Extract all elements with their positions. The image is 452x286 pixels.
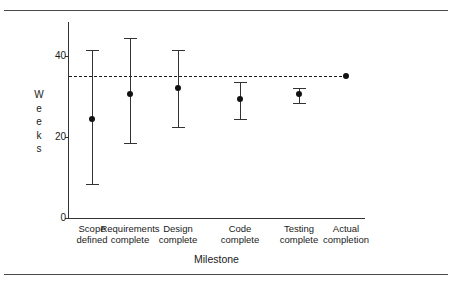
y-axis-title-letter: k [30, 129, 48, 143]
error-bar-cap-upper [124, 38, 137, 39]
figure: 02040 Weeks ScopedefinedRequirementscomp… [0, 0, 452, 286]
chart-plot-area: 02040 Weeks ScopedefinedRequirementscomp… [0, 0, 452, 286]
error-bar-cap-lower [124, 143, 137, 144]
x-category-label-line: Actual [303, 223, 389, 234]
error-bar-cap-upper [293, 88, 306, 89]
x-category-label-line: completion [303, 234, 389, 245]
x-category-label: Actualcompletion [303, 223, 389, 245]
error-bar-cap-lower [86, 184, 99, 185]
x-axis-line [68, 218, 365, 219]
error-bar-cap-upper [86, 50, 99, 51]
error-bar-line [130, 38, 131, 143]
data-point-marker [237, 96, 243, 102]
y-tick-label-text: 0 [44, 213, 66, 223]
y-axis-title-letter: W [30, 88, 48, 102]
y-axis-title: Weeks [30, 88, 48, 156]
y-axis-title-letter: e [30, 115, 48, 129]
y-axis-line [68, 22, 69, 219]
error-bar-cap-lower [293, 103, 306, 104]
error-bar-cap-upper [172, 50, 185, 51]
y-tick-label: 0 [40, 213, 66, 223]
error-bar-cap-upper [234, 82, 247, 83]
target-reference-line [69, 76, 347, 77]
error-bar-cap-lower [234, 119, 247, 120]
data-point-marker [127, 91, 133, 97]
y-tick-label-text: 40 [44, 51, 66, 61]
y-axis-title-letter: e [30, 102, 48, 116]
y-tick-label: 40 [40, 51, 66, 61]
data-point-marker [175, 85, 181, 91]
y-axis-title-letter: s [30, 142, 48, 156]
x-axis-title: Milestone [68, 253, 365, 265]
data-point-marker [343, 73, 349, 79]
data-point-marker [89, 116, 95, 122]
error-bar-cap-lower [172, 127, 185, 128]
data-point-marker [296, 91, 302, 97]
